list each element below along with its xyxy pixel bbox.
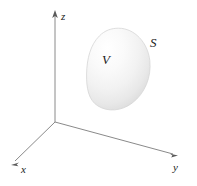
closed-surface-blob <box>87 28 151 110</box>
z-axis-label: z <box>61 11 65 22</box>
y-axis-label: y <box>173 162 178 173</box>
y-axis-arrowhead <box>170 154 178 158</box>
x-axis-arrowhead <box>11 163 19 167</box>
volume-label: V <box>102 53 110 66</box>
coordinate-axes <box>0 0 197 186</box>
x-axis-line <box>15 122 55 161</box>
x-axis-label: x <box>21 164 26 175</box>
divergence-theorem-figure: z x y V S <box>0 0 197 186</box>
surface-label: S <box>150 36 157 49</box>
y-axis-line <box>55 122 173 154</box>
